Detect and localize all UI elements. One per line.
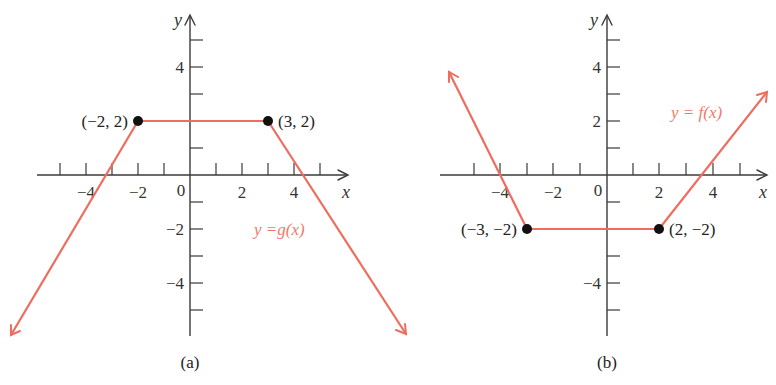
- figure-canvas: −4 −2 0 2 4 4 −2 −4 x y (−2, 2) (3, 2) y…: [0, 0, 776, 385]
- y-tick-label: 4: [176, 58, 185, 77]
- origin-label: 0: [594, 181, 603, 200]
- origin-label: 0: [177, 181, 186, 200]
- y-tick-label: 4: [593, 58, 602, 77]
- y-axis-label: y: [588, 10, 598, 30]
- point-label: (3, 2): [278, 112, 315, 131]
- caption-b: (b): [597, 353, 617, 372]
- x-tick-label: 2: [655, 183, 664, 202]
- x-tick-label: 2: [238, 183, 247, 202]
- x-tick-label: −2: [544, 183, 562, 202]
- x-tick-label: 4: [290, 183, 299, 202]
- function-label: y =g(x): [252, 220, 305, 239]
- x-tick-label: −2: [129, 183, 147, 202]
- y-tick-label: 2: [593, 112, 602, 131]
- g-curve: [11, 121, 406, 335]
- x-axis-label: x: [341, 182, 350, 202]
- point-marker: [133, 116, 143, 126]
- point-label: (2, −2): [669, 220, 715, 239]
- y-tick-label: −4: [166, 274, 185, 293]
- caption-a: (a): [181, 353, 200, 372]
- point-marker: [263, 116, 273, 126]
- f-curve: [449, 72, 767, 229]
- x-tick-label: 4: [709, 183, 718, 202]
- function-label: y = f(x): [669, 103, 722, 122]
- point-label: (−2, 2): [82, 112, 128, 131]
- y-tick-label: −2: [166, 220, 184, 239]
- y-tick-label: −4: [583, 274, 602, 293]
- point-marker: [522, 224, 532, 234]
- point-label: (−3, −2): [461, 220, 517, 239]
- panel-b: −4 −2 0 2 4 4 2 −4 x y (−3, −2) (2, −2) …: [440, 10, 767, 372]
- panel-a: −4 −2 0 2 4 4 −2 −4 x y (−2, 2) (3, 2) y…: [11, 10, 406, 372]
- point-marker: [654, 224, 664, 234]
- y-axis-label: y: [172, 10, 182, 30]
- x-axis-label: x: [758, 182, 767, 202]
